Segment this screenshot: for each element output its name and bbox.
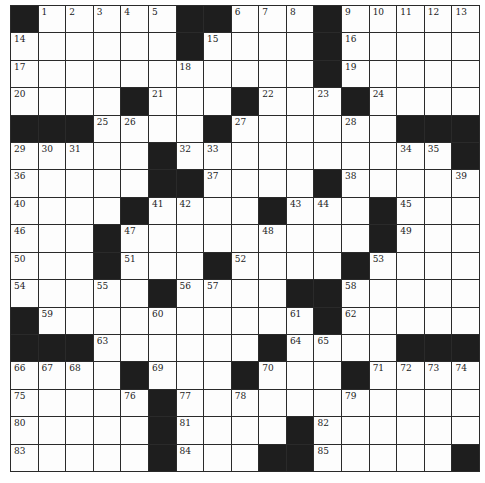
grid-cell[interactable]: 21 bbox=[149, 88, 176, 114]
grid-cell[interactable] bbox=[370, 445, 397, 471]
grid-cell[interactable] bbox=[177, 88, 204, 114]
grid-cell[interactable] bbox=[204, 88, 231, 114]
grid-cell[interactable] bbox=[314, 390, 341, 416]
grid-cell[interactable] bbox=[397, 253, 424, 279]
grid-cell[interactable] bbox=[342, 198, 369, 224]
grid-cell[interactable]: 4 bbox=[121, 6, 148, 32]
grid-cell[interactable]: 71 bbox=[370, 362, 397, 388]
grid-cell[interactable]: 30 bbox=[39, 143, 66, 169]
grid-cell[interactable] bbox=[314, 225, 341, 251]
grid-cell[interactable]: 48 bbox=[259, 225, 286, 251]
grid-cell[interactable] bbox=[232, 280, 259, 306]
grid-cell[interactable]: 26 bbox=[121, 116, 148, 142]
grid-cell[interactable]: 12 bbox=[425, 6, 452, 32]
grid-cell[interactable] bbox=[425, 33, 452, 59]
grid-cell[interactable] bbox=[259, 116, 286, 142]
grid-cell[interactable] bbox=[397, 445, 424, 471]
grid-cell[interactable] bbox=[425, 390, 452, 416]
grid-cell[interactable]: 34 bbox=[397, 143, 424, 169]
grid-cell[interactable] bbox=[425, 170, 452, 196]
grid-cell[interactable] bbox=[370, 170, 397, 196]
grid-cell[interactable] bbox=[94, 445, 121, 471]
grid-cell[interactable] bbox=[204, 308, 231, 334]
grid-cell[interactable] bbox=[177, 308, 204, 334]
grid-cell[interactable] bbox=[121, 143, 148, 169]
grid-cell[interactable] bbox=[94, 362, 121, 388]
grid-cell[interactable] bbox=[342, 335, 369, 361]
grid-cell[interactable]: 62 bbox=[342, 308, 369, 334]
grid-cell[interactable]: 55 bbox=[94, 280, 121, 306]
grid-cell[interactable] bbox=[287, 390, 314, 416]
grid-cell[interactable]: 65 bbox=[314, 335, 341, 361]
grid-cell[interactable] bbox=[39, 61, 66, 87]
grid-cell[interactable] bbox=[94, 61, 121, 87]
grid-cell[interactable] bbox=[177, 362, 204, 388]
grid-cell[interactable] bbox=[397, 170, 424, 196]
grid-cell[interactable]: 39 bbox=[452, 170, 479, 196]
grid-cell[interactable] bbox=[425, 198, 452, 224]
grid-cell[interactable]: 57 bbox=[204, 280, 231, 306]
grid-cell[interactable]: 77 bbox=[177, 390, 204, 416]
grid-cell[interactable]: 49 bbox=[397, 225, 424, 251]
grid-cell[interactable]: 42 bbox=[177, 198, 204, 224]
grid-cell[interactable]: 43 bbox=[287, 198, 314, 224]
grid-cell[interactable] bbox=[66, 225, 93, 251]
grid-cell[interactable] bbox=[425, 280, 452, 306]
grid-cell[interactable] bbox=[314, 116, 341, 142]
grid-cell[interactable]: 40 bbox=[11, 198, 38, 224]
grid-cell[interactable] bbox=[121, 170, 148, 196]
grid-cell[interactable] bbox=[425, 88, 452, 114]
grid-cell[interactable] bbox=[425, 417, 452, 443]
grid-cell[interactable] bbox=[149, 61, 176, 87]
grid-cell[interactable]: 7 bbox=[259, 6, 286, 32]
grid-cell[interactable]: 15 bbox=[204, 33, 231, 59]
grid-cell[interactable]: 46 bbox=[11, 225, 38, 251]
grid-cell[interactable] bbox=[66, 33, 93, 59]
grid-cell[interactable] bbox=[232, 198, 259, 224]
grid-cell[interactable] bbox=[259, 308, 286, 334]
grid-cell[interactable]: 37 bbox=[204, 170, 231, 196]
grid-cell[interactable] bbox=[232, 225, 259, 251]
grid-cell[interactable]: 23 bbox=[314, 88, 341, 114]
grid-cell[interactable] bbox=[259, 143, 286, 169]
grid-cell[interactable] bbox=[39, 33, 66, 59]
grid-cell[interactable]: 41 bbox=[149, 198, 176, 224]
grid-cell[interactable]: 11 bbox=[397, 6, 424, 32]
grid-cell[interactable]: 74 bbox=[452, 362, 479, 388]
grid-cell[interactable] bbox=[232, 170, 259, 196]
grid-cell[interactable] bbox=[232, 143, 259, 169]
grid-cell[interactable] bbox=[452, 198, 479, 224]
grid-cell[interactable]: 19 bbox=[342, 61, 369, 87]
grid-cell[interactable]: 2 bbox=[66, 6, 93, 32]
grid-cell[interactable] bbox=[452, 253, 479, 279]
grid-cell[interactable] bbox=[370, 116, 397, 142]
grid-cell[interactable]: 68 bbox=[66, 362, 93, 388]
grid-cell[interactable] bbox=[452, 390, 479, 416]
grid-cell[interactable] bbox=[232, 308, 259, 334]
grid-cell[interactable]: 13 bbox=[452, 6, 479, 32]
grid-cell[interactable] bbox=[39, 198, 66, 224]
grid-cell[interactable] bbox=[232, 417, 259, 443]
grid-cell[interactable] bbox=[94, 170, 121, 196]
grid-cell[interactable] bbox=[425, 61, 452, 87]
grid-cell[interactable] bbox=[452, 280, 479, 306]
grid-cell[interactable] bbox=[370, 335, 397, 361]
grid-cell[interactable] bbox=[452, 61, 479, 87]
grid-cell[interactable] bbox=[342, 445, 369, 471]
grid-cell[interactable] bbox=[177, 116, 204, 142]
grid-cell[interactable] bbox=[149, 33, 176, 59]
grid-cell[interactable] bbox=[149, 116, 176, 142]
grid-cell[interactable]: 54 bbox=[11, 280, 38, 306]
grid-cell[interactable]: 85 bbox=[314, 445, 341, 471]
grid-cell[interactable]: 44 bbox=[314, 198, 341, 224]
grid-cell[interactable] bbox=[259, 61, 286, 87]
grid-cell[interactable]: 67 bbox=[39, 362, 66, 388]
grid-cell[interactable]: 78 bbox=[232, 390, 259, 416]
grid-cell[interactable]: 53 bbox=[370, 253, 397, 279]
grid-cell[interactable] bbox=[66, 417, 93, 443]
grid-cell[interactable] bbox=[259, 417, 286, 443]
grid-cell[interactable]: 50 bbox=[11, 253, 38, 279]
grid-cell[interactable] bbox=[452, 417, 479, 443]
grid-cell[interactable]: 56 bbox=[177, 280, 204, 306]
grid-cell[interactable] bbox=[314, 253, 341, 279]
